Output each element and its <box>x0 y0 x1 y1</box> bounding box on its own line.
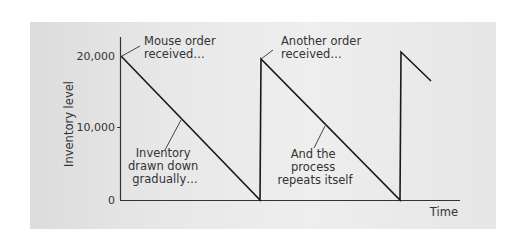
inventory-chart: 20,000 10,000 0 Inventory level Time Mou… <box>0 0 521 241</box>
y-axis-label: Inventory level <box>62 81 76 167</box>
annotation-mouse-order: Mouse order received… <box>144 34 219 61</box>
annotation-leader-1 <box>122 46 140 56</box>
tick-label-20000: 20,000 <box>77 50 116 63</box>
tick-label-0: 0 <box>108 194 115 207</box>
annotation-leader-3 <box>261 50 273 59</box>
annotation-another-order: Another order received… <box>281 34 365 61</box>
tick-label-10000: 10,000 <box>77 121 116 134</box>
x-axis-label: Time <box>429 205 458 219</box>
annotation-leader-4 <box>314 126 325 148</box>
annotation-drawn-down: Inventory drawn down gradually… <box>128 146 202 186</box>
annotation-repeats: And the process repeats itself <box>277 147 353 187</box>
